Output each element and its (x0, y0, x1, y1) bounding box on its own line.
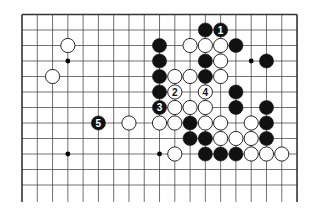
black-stone (229, 147, 243, 161)
black-stone-move-1: 1 (214, 23, 228, 37)
white-stone (122, 116, 136, 130)
black-stone (183, 116, 197, 130)
white-stone (198, 100, 212, 114)
white-stone (214, 38, 228, 52)
white-stone (168, 69, 182, 83)
stone-circle (214, 69, 228, 83)
stone-circle (198, 147, 212, 161)
white-stone (168, 147, 182, 161)
stone-circle (259, 147, 273, 161)
black-stone (152, 54, 166, 68)
stone-circle (244, 131, 258, 145)
stone-circle (198, 116, 212, 130)
go-board-diagram: 12435 (0, 0, 314, 216)
stone-circle (183, 131, 197, 145)
stone-circle (259, 100, 273, 114)
black-stone (198, 147, 212, 161)
white-stone (183, 69, 197, 83)
move-number-label: 5 (96, 118, 102, 129)
white-stone (45, 69, 59, 83)
stone-circle (198, 23, 212, 37)
white-stone (214, 54, 228, 68)
stone-circle (229, 38, 243, 52)
white-stone-move-4: 4 (198, 85, 212, 99)
stone-circle (229, 100, 243, 114)
stone-circle (183, 100, 197, 114)
black-stone-move-5: 5 (91, 116, 105, 130)
white-stone (198, 38, 212, 52)
stone-circle (259, 54, 273, 68)
black-stone (229, 85, 243, 99)
stone-circle (152, 38, 166, 52)
white-stone (229, 131, 243, 145)
stone-circle (61, 38, 75, 52)
stone-circle (214, 54, 228, 68)
stone-circle (244, 147, 258, 161)
white-stone (214, 69, 228, 83)
stone-circle (259, 116, 273, 130)
white-stone (214, 116, 228, 130)
go-board: 12435 (0, 0, 314, 216)
white-stone (214, 131, 228, 145)
stone-circle (198, 131, 212, 145)
black-stone (229, 38, 243, 52)
hoshi-point (65, 152, 70, 157)
white-stone (198, 116, 212, 130)
stone-circle (229, 85, 243, 99)
stone-circle (229, 131, 243, 145)
black-stone (152, 38, 166, 52)
stone-circle (275, 147, 289, 161)
black-stone (214, 147, 228, 161)
black-stone (198, 54, 212, 68)
black-stone (259, 131, 273, 145)
stone-circle (152, 116, 166, 130)
stone-circle (168, 116, 182, 130)
white-stone (275, 147, 289, 161)
stone-circle (183, 38, 197, 52)
white-stone-move-2: 2 (168, 85, 182, 99)
white-stone (168, 116, 182, 130)
black-stone (259, 116, 273, 130)
stone-circle (259, 131, 273, 145)
black-stone (229, 100, 243, 114)
stone-circle (214, 147, 228, 161)
stone-circle (152, 69, 166, 83)
stone-circle (152, 85, 166, 99)
stone-circle (122, 116, 136, 130)
stone-circle (214, 131, 228, 145)
black-stone (152, 85, 166, 99)
stone-circle (198, 100, 212, 114)
move-number-label: 4 (203, 87, 209, 98)
black-stone (259, 54, 273, 68)
hoshi-point (249, 59, 254, 64)
stone-circle (214, 116, 228, 130)
black-stone (198, 69, 212, 83)
black-stone (259, 100, 273, 114)
stone-circle (244, 116, 258, 130)
stone-circle (168, 147, 182, 161)
move-number-label: 3 (157, 102, 163, 113)
stone-circle (168, 100, 182, 114)
white-stone (244, 131, 258, 145)
white-stone (61, 38, 75, 52)
black-stone (198, 131, 212, 145)
stone-circle (229, 147, 243, 161)
black-stone-move-3: 3 (152, 100, 166, 114)
stone-circle (198, 69, 212, 83)
stone-circle (183, 69, 197, 83)
white-stone (244, 147, 258, 161)
white-stone (168, 100, 182, 114)
hoshi-point (65, 59, 70, 64)
stone-circle (198, 54, 212, 68)
black-stone (152, 69, 166, 83)
white-stone (183, 100, 197, 114)
hoshi-point (157, 152, 162, 157)
stone-circle (168, 69, 182, 83)
stone-circle (183, 116, 197, 130)
black-stone (198, 23, 212, 37)
move-number-label: 2 (172, 87, 178, 98)
black-stone (183, 131, 197, 145)
white-stone (259, 147, 273, 161)
white-stone (152, 116, 166, 130)
stone-circle (152, 54, 166, 68)
